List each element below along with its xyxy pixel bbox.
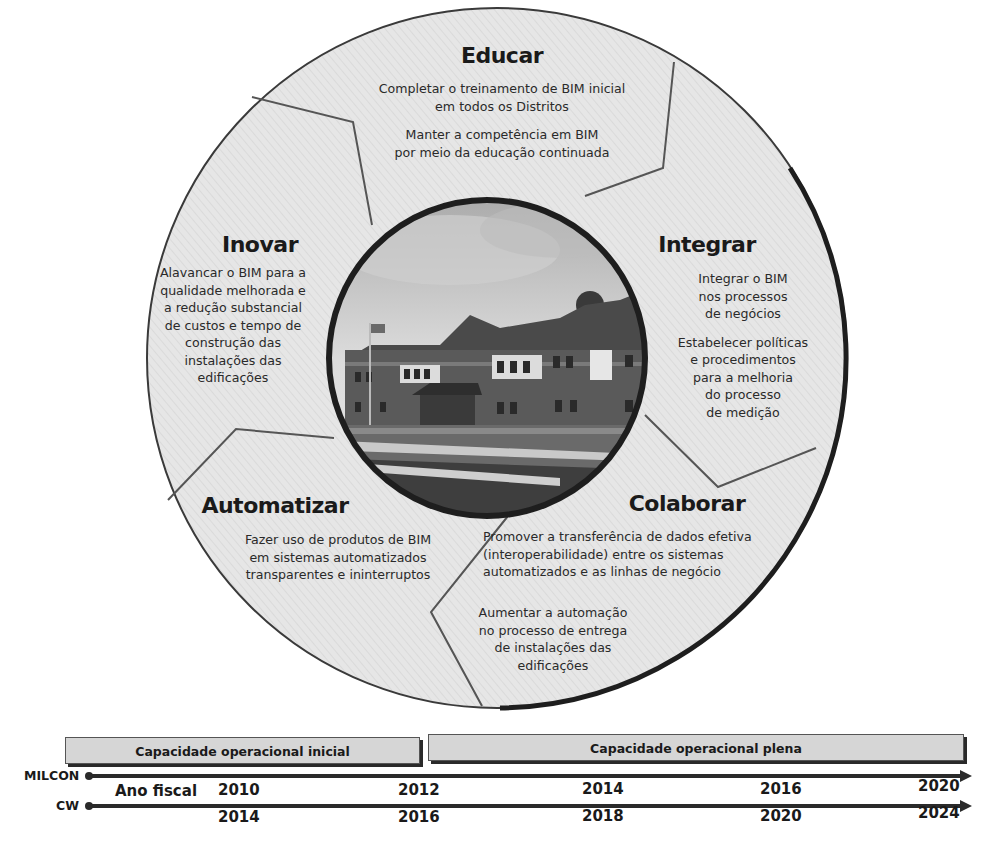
segment-text-educar: Completar o treinamento de BIM inicial e…: [332, 80, 672, 161]
segment-title-inovar: Inovar: [210, 232, 310, 257]
inovar-line-3: a redução substancial: [148, 299, 318, 317]
segment-text-automatizar: Fazer uso de produtos de BIM em sistemas…: [218, 531, 458, 584]
inovar-line-4: de custos e tempo de: [148, 317, 318, 335]
inovar-line-2: qualidade melhorada e: [148, 282, 318, 300]
cw-year: 2014: [218, 808, 260, 826]
cw-arrow-icon: [960, 800, 972, 812]
inovar-line-7: edificações: [148, 369, 318, 387]
educar-line-3: Manter a competência em BIM: [332, 126, 672, 144]
cw-year: 2020: [760, 807, 802, 825]
fiscal-year-label: Ano fiscal: [115, 782, 197, 800]
milcon-start-dot-icon: [85, 772, 93, 780]
integrar-line-7: do processo: [668, 386, 818, 404]
integrar-line-8: de medição: [668, 404, 818, 422]
segment-text-colaborar-2: Aumentar a automação no processo de entr…: [468, 604, 638, 674]
educar-line-4: por meio da educação continuada: [332, 144, 672, 162]
milcon-year: 2016: [760, 780, 802, 798]
milcon-arrow-icon: [960, 770, 972, 782]
segment-title-automatizar: Automatizar: [200, 493, 350, 518]
cw-year: 2024: [918, 804, 960, 822]
integrar-line-6: para a melhoria: [668, 369, 818, 387]
cw-year: 2018: [582, 807, 624, 825]
automatizar-line-1: Fazer uso de produtos de BIM: [218, 531, 458, 549]
segment-text-inovar: Alavancar o BIM para a qualidade melhora…: [148, 264, 318, 387]
phase-initial-capability: Capacidade operacional inicial: [65, 737, 420, 764]
cw-start-dot-icon: [85, 802, 93, 810]
colaborar-line-1: Promover a transferência de dados efetiv…: [483, 528, 773, 546]
segment-title-colaborar: Colaborar: [622, 491, 752, 516]
colaborar-line-5: no processo de entrega: [468, 622, 638, 640]
integrar-line-2: nos processos: [668, 288, 818, 306]
educar-line-1: Completar o treinamento de BIM inicial: [332, 80, 672, 98]
colaborar-line-3: automatizados e as linhas de negócio: [483, 563, 773, 581]
milcon-year: 2012: [398, 781, 440, 799]
colaborar-line-2: (interoperabilidade) entre os sistemas: [483, 546, 773, 564]
integrar-line-5: e procedimentos: [668, 351, 818, 369]
track-label-cw: CW: [56, 798, 79, 813]
track-label-milcon: MILCON: [24, 768, 79, 783]
segment-text-integrar: Integrar o BIM nos processos de negócios…: [668, 270, 818, 421]
colaborar-line-4: Aumentar a automação: [468, 604, 638, 622]
segment-text-colaborar-1: Promover a transferência de dados efetiv…: [483, 528, 773, 581]
milcon-year: 2020: [918, 777, 960, 795]
inovar-line-5: construção das: [148, 334, 318, 352]
automatizar-line-3: transparentes e ininterruptos: [218, 566, 458, 584]
integrar-line-3: de negócios: [668, 305, 818, 323]
segment-title-educar: Educar: [447, 43, 557, 68]
milcon-year: 2010: [218, 781, 260, 799]
integrar-line-4: Estabelecer políticas: [668, 334, 818, 352]
automatizar-line-2: em sistemas automatizados: [218, 549, 458, 567]
colaborar-line-7: edificações: [468, 657, 638, 675]
integrar-line-1: Integrar o BIM: [668, 270, 818, 288]
educar-line-2: em todos os Distritos: [332, 98, 672, 116]
milcon-year: 2014: [582, 780, 624, 798]
inovar-line-1: Alavancar o BIM para a: [148, 264, 318, 282]
colaborar-line-6: de instalações das: [468, 639, 638, 657]
segment-title-integrar: Integrar: [652, 232, 762, 257]
phase-full-capability: Capacidade operacional plena: [428, 734, 964, 761]
cw-year: 2016: [398, 808, 440, 826]
inovar-line-6: instalações das: [148, 352, 318, 370]
